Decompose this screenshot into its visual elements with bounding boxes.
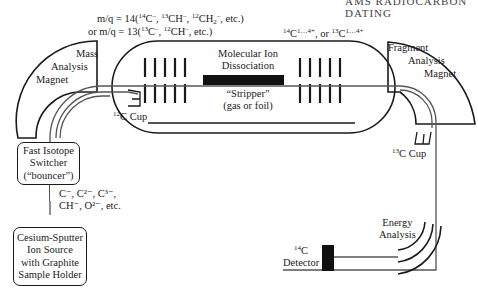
mass-magnet-label-1: Mass [76,48,98,60]
c13-cup-icon [415,132,431,144]
right-electrodes [300,58,340,103]
c14-detector-label: 14C Detector [283,245,319,269]
charge-state-annotation: 14C1…4+, or 13C1…4+ [283,28,364,40]
fragment-magnet-label-3: Magnet [424,68,456,80]
energy-analysis-label: EnergyAnalysis [379,217,416,241]
c13-cup-label: 13C Cup [392,148,426,160]
beam-path [50,86,436,270]
fragment-magnet-label-1: Fragment [388,42,428,54]
stripper-bar [203,75,284,85]
left-electrodes [145,58,185,103]
stripper-label: “Stripper”(gas or foil) [208,88,288,112]
mq13-annotation: or m/q = 13(13C–, 12CH–, etc.) [88,26,212,38]
cesium-sputter-ion-source: Cesium-SputterIon Sourcewith GraphiteSam… [13,227,87,286]
fragment-magnet-label-2: Analysis [408,55,445,67]
mass-magnet-label-3: Magnet [36,74,68,86]
mass-magnet-label-2: Analysis [51,61,88,73]
dissociation-label: Molecular IonDissociation [208,48,288,72]
c12-cup-label: 12C Cup [113,111,147,123]
mq14-annotation: m/q = 14(14C–, 13CH–, 12CH2–, etc.) [97,13,244,25]
ion-species-annotation: C⁻, C²⁻, C³⁻,CH⁻, O²⁻, etc. [59,188,121,212]
fast-isotope-switcher: Fast IsotopeSwitcher(“bouncer”) [17,142,80,185]
c14-detector-block [322,245,334,271]
